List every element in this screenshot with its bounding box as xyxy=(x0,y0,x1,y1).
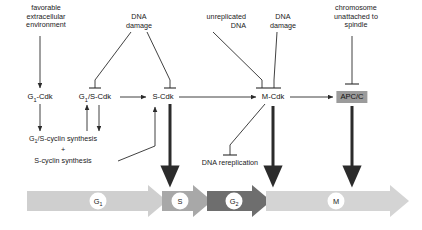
node-apc-c: APC/C xyxy=(336,91,367,103)
phase-label-g1: G1 xyxy=(94,197,103,206)
signal-text-line2: damage xyxy=(270,21,296,30)
signal-text-line3: spindle xyxy=(345,20,368,29)
diagram-vector-layer xyxy=(0,0,422,230)
cell-cycle-diagram: favorableextracellularenvironment DNAdam… xyxy=(0,0,422,230)
phase-label-main: S xyxy=(178,197,183,206)
phase-arrow-bar xyxy=(27,185,409,217)
node-m-cdk: M-Cdk xyxy=(262,92,284,101)
node-label-main: S-Cdk xyxy=(152,92,173,101)
annotation-g1s-cyclin-synthesis: G1/S-cyclin synthesis xyxy=(29,135,97,144)
node-label-tail: /S-Cdk xyxy=(88,92,111,101)
line-dnadamage-to-g1scdk xyxy=(95,32,131,80)
annotation-dna-rereplication: DNA rereplication xyxy=(202,159,258,168)
signal-dna-damage-g1s: DNAdamage xyxy=(126,13,152,30)
signal-chromosome-unattached: chromosomeunattached tospindle xyxy=(334,4,378,30)
node-label-tail: -Cdk xyxy=(37,92,53,101)
annotation-text-tail: /S-cyclin synthesis xyxy=(38,134,98,143)
phase-label-sub: 1 xyxy=(99,201,102,207)
phase-label-sub: 2 xyxy=(235,201,238,207)
signal-dna-damage-mcdk: DNAdamage xyxy=(270,13,296,30)
node-label-main: M-Cdk xyxy=(262,92,284,101)
line-dnadamage-to-mcdk xyxy=(274,32,277,80)
signal-text-line2: damage xyxy=(126,21,152,30)
arrow-scyclin-synthesis-to-scdk xyxy=(118,107,155,161)
signal-text-line2: DNA xyxy=(231,21,246,30)
signal-favorable-environment: favorableextracellularenvironment xyxy=(26,4,66,30)
annotation-s-cyclin-synthesis: S-cyclin synthesis xyxy=(34,157,91,166)
node-label-main: APC/C xyxy=(340,92,363,101)
line-mcdk-inhibits-rereplication xyxy=(230,104,265,155)
signal-text-line3: environment xyxy=(26,20,66,29)
node-g1s-cdk: G1/S-Cdk xyxy=(79,92,111,101)
annotation-plus-sign: + xyxy=(61,146,65,155)
node-s-cdk: S-Cdk xyxy=(152,92,173,101)
phase-label-m: M xyxy=(333,197,339,206)
phase-label-g2: G2 xyxy=(230,197,239,206)
annotation-text-main: DNA rereplication xyxy=(202,158,258,167)
annotation-text-main: + xyxy=(61,145,65,154)
signal-unreplicated-dna: unreplicatedDNA xyxy=(207,13,246,30)
line-dnadamage-to-scdk xyxy=(147,32,170,80)
phase-label-s: S xyxy=(178,197,183,206)
phase-label-main: M xyxy=(333,197,339,206)
annotation-text-main: S-cyclin synthesis xyxy=(34,156,91,165)
node-g1-cdk: G1-Cdk xyxy=(27,92,52,101)
line-unreplicated-to-mcdk xyxy=(213,32,262,80)
